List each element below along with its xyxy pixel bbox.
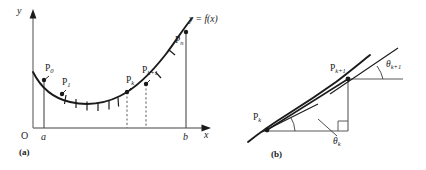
point-label-pn-sub: n: [180, 39, 183, 46]
angle-label-theta-k1-sub: k+1: [391, 63, 402, 70]
point-label-pk1-sub: k+1: [147, 69, 158, 76]
right-angle-marker: [338, 121, 348, 131]
leader-theta-k: [318, 119, 337, 136]
curve-tick-near-p1: [65, 95, 67, 104]
origin-label: O: [21, 131, 28, 141]
leader-p0: [46, 76, 50, 79]
detail-point-label-pk: Pk: [253, 113, 261, 123]
detail-point-marker-pk: [265, 128, 270, 133]
angle-label-theta-k1: θk+1: [386, 60, 401, 70]
angle-label-theta-k-name: θ: [333, 136, 338, 146]
point-label-pn: Pn: [175, 36, 184, 46]
angle-arc-theta-k: [291, 117, 296, 131]
point-label-pk-sub: k: [131, 79, 134, 86]
detail-point-label-pk-sub: k: [258, 116, 261, 123]
detail-point-label-pk1: Pk+1: [330, 64, 346, 74]
angle-label-theta-k1-name: θ: [386, 59, 391, 69]
point-label-p1-sub: 1: [67, 81, 70, 88]
tick-label-a: a: [41, 132, 46, 142]
leader-pk1: [147, 80, 150, 83]
y-axis-arrowhead: [30, 9, 37, 19]
y-axis-label: y: [17, 6, 21, 16]
panel-a-graphics: [30, 9, 211, 131]
point-label-p0: P0: [45, 64, 54, 74]
function-curve: [33, 18, 192, 104]
panel-b-graphics: [248, 48, 403, 142]
point-label-p1: P1: [62, 78, 71, 88]
angle-label-theta-k-sub: k: [338, 140, 341, 147]
point-label-pk1: Pk+1: [142, 66, 158, 76]
x-axis-label: x: [204, 130, 208, 140]
tick-label-b: b: [183, 132, 188, 142]
detail-point-marker-pk1: [346, 77, 351, 82]
point-label-p0-sub: 0: [50, 67, 53, 74]
panel-a-tag: (a): [19, 148, 30, 157]
point-marker-pn: [184, 30, 188, 34]
leader-p1: [63, 90, 66, 93]
detail-point-label-pk1-sub: k+1: [335, 67, 346, 74]
angle-arc-theta-k1: [377, 66, 383, 79]
panel-b-tag: (b): [271, 150, 282, 159]
tangent-line-pk: [262, 104, 318, 132]
point-label-pk: Pk: [126, 76, 134, 86]
figure-container: y x O y = f(x) a b P0 P1 Pk Pk+1 Pn (a) …: [0, 0, 426, 170]
chord-pk-pk1: [267, 79, 348, 130]
angle-label-theta-k: θk: [333, 137, 341, 147]
function-equation-label: y = f(x): [189, 15, 218, 25]
